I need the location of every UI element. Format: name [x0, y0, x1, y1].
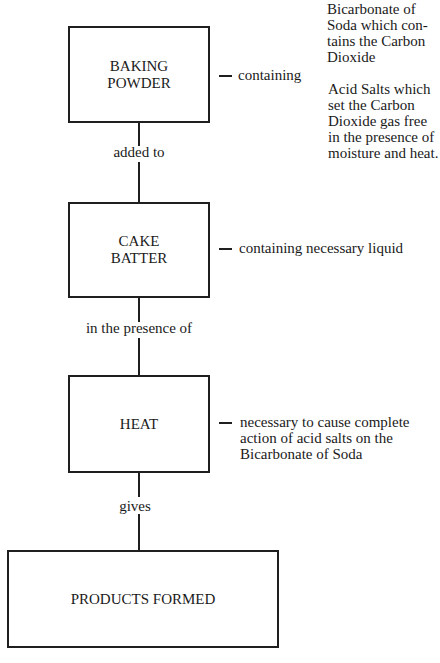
node-label-line: POWDER — [107, 75, 170, 92]
annotation-dash — [219, 422, 232, 424]
annotation-heat: necessary to cause complete action of ac… — [240, 414, 410, 462]
connector-line — [138, 472, 140, 497]
node-label-line: PRODUCTS FORMED — [71, 591, 216, 608]
edge-label-in-the-presence-of: in the presence of — [86, 320, 192, 337]
edge-label-added-to: added to — [113, 144, 164, 161]
node-label-line: HEAT — [120, 416, 158, 433]
note-line: Acid Salts which — [328, 81, 438, 97]
connector-line — [138, 122, 140, 146]
note-line: Bicarbonate of — [327, 1, 428, 17]
note-line: moisture and heat. — [328, 145, 438, 161]
node-label-line: BAKING — [107, 58, 170, 75]
annotation-acid-salts: Acid Salts which set the Carbon Dioxide … — [328, 81, 438, 161]
note-line: action of acid salts on the — [240, 430, 410, 446]
annotation-dash — [219, 248, 232, 250]
edge-label-gives: gives — [119, 498, 151, 515]
annotation-dash — [219, 75, 232, 77]
note-line: necessary to cause complete — [240, 414, 410, 430]
node-cake-batter: CAKE BATTER — [68, 202, 210, 298]
note-line: tains the Carbon — [327, 33, 428, 49]
annotation-containing-liquid: containing necessary liquid — [239, 240, 403, 256]
note-line: Dioxide — [327, 49, 428, 65]
node-heat: HEAT — [68, 375, 210, 473]
connector-line — [138, 338, 140, 375]
connector-line — [138, 297, 140, 322]
note-line: Bicarbonate of Soda — [240, 446, 410, 462]
note-line: Dioxide gas free — [328, 113, 438, 129]
connector-line — [138, 162, 140, 202]
node-label-line: BATTER — [111, 250, 168, 267]
node-products-formed: PRODUCTS FORMED — [7, 550, 279, 648]
note-line: Soda which con- — [327, 17, 428, 33]
node-label-line: CAKE — [111, 233, 168, 250]
annotation-containing: containing — [238, 67, 301, 83]
node-baking-powder: BAKING POWDER — [68, 26, 210, 123]
connector-line — [138, 514, 140, 551]
note-line: set the Carbon — [328, 97, 438, 113]
annotation-bicarbonate: Bicarbonate of Soda which con- tains the… — [327, 1, 428, 65]
note-line: in the presence of — [328, 129, 438, 145]
